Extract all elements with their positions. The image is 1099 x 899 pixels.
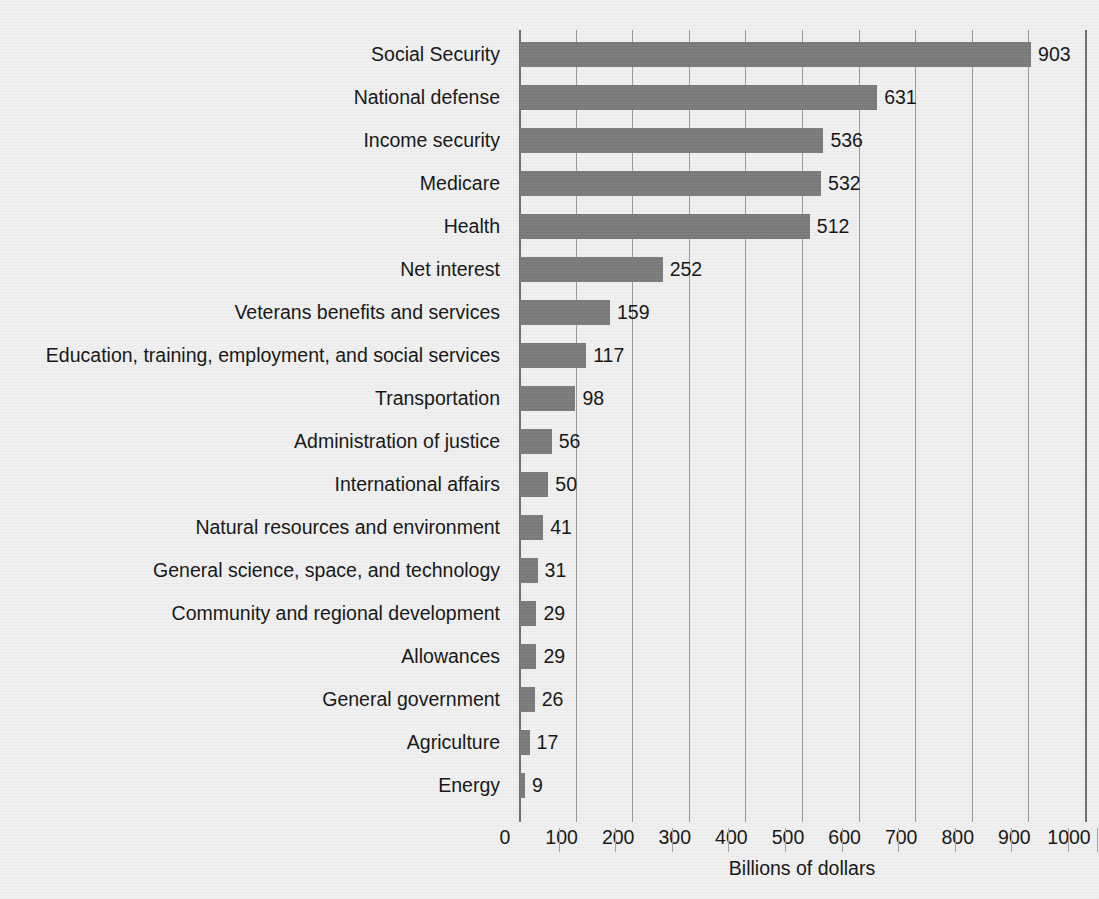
category-label: National defense xyxy=(354,76,500,119)
category-label: Agriculture xyxy=(407,721,500,764)
bar xyxy=(520,515,543,540)
bar xyxy=(520,644,536,669)
bar-value-label: 9 xyxy=(532,764,543,807)
bar-row: National defense631 xyxy=(0,76,1099,119)
bar xyxy=(520,85,877,110)
bar-value-label: 29 xyxy=(543,635,565,678)
bar xyxy=(520,214,810,239)
x-axis-tick-labels: 01002003004005006007008009001000 xyxy=(0,826,1099,854)
x-tick-label-700: 700 xyxy=(871,826,931,849)
bar-value-label: 512 xyxy=(817,205,850,248)
x-tick-separator xyxy=(1068,828,1069,852)
bar-value-label: 252 xyxy=(670,248,703,291)
x-tick-separator xyxy=(898,828,899,852)
category-label: Veterans benefits and services xyxy=(234,291,500,334)
bar xyxy=(520,730,530,755)
bar-row: Health512 xyxy=(0,205,1099,248)
bar-row: Medicare532 xyxy=(0,162,1099,205)
category-label: Community and regional development xyxy=(172,592,500,635)
category-label: Transportation xyxy=(375,377,500,420)
bar-row: General government26 xyxy=(0,678,1099,721)
bar-row: Community and regional development29 xyxy=(0,592,1099,635)
x-tick-separator xyxy=(615,828,616,852)
bar-value-label: 536 xyxy=(830,119,863,162)
bar xyxy=(520,601,536,626)
bar-row: Energy9 xyxy=(0,764,1099,807)
x-tick-separator xyxy=(728,828,729,852)
x-tick-label-800: 800 xyxy=(928,826,988,849)
x-tick-label-0: 0 xyxy=(475,826,535,849)
bar-row: Agriculture17 xyxy=(0,721,1099,764)
bar-row: Natural resources and environment41 xyxy=(0,506,1099,549)
x-tick-separator xyxy=(842,828,843,852)
bar-value-label: 26 xyxy=(542,678,564,721)
bar-value-label: 41 xyxy=(550,506,572,549)
bar-value-label: 159 xyxy=(617,291,650,334)
bar-value-label: 31 xyxy=(545,549,567,592)
bar xyxy=(520,687,535,712)
bar-value-label: 50 xyxy=(555,463,577,506)
bar-value-label: 17 xyxy=(537,721,559,764)
category-label: Health xyxy=(444,205,500,248)
category-label: Education, training, employment, and soc… xyxy=(46,334,500,377)
x-tick-label-600: 600 xyxy=(815,826,875,849)
x-tick-label-300: 300 xyxy=(645,826,705,849)
bar xyxy=(520,773,525,798)
bar-row: Income security536 xyxy=(0,119,1099,162)
category-label: Natural resources and environment xyxy=(195,506,500,549)
bar-row: Veterans benefits and services159 xyxy=(0,291,1099,334)
bar-value-label: 903 xyxy=(1038,33,1071,76)
bar xyxy=(520,472,548,497)
x-tick-separator xyxy=(955,828,956,852)
bar xyxy=(520,300,610,325)
x-tick-separator xyxy=(559,828,560,852)
category-label: Income security xyxy=(363,119,500,162)
x-tick-label-1000: 1000 xyxy=(1039,826,1099,849)
x-tick-separator xyxy=(785,828,786,852)
bar-row: Administration of justice56 xyxy=(0,420,1099,463)
x-tick-label-400: 400 xyxy=(701,826,761,849)
x-tick-label-900: 900 xyxy=(984,826,1044,849)
bar-value-label: 98 xyxy=(582,377,604,420)
bar xyxy=(520,171,821,196)
category-label: Medicare xyxy=(420,162,500,205)
category-label: General government xyxy=(322,678,500,721)
category-label: International affairs xyxy=(335,463,501,506)
category-label: Allowances xyxy=(401,635,500,678)
bar-value-label: 29 xyxy=(543,592,565,635)
bar xyxy=(520,429,552,454)
bar-row: General science, space, and technology31 xyxy=(0,549,1099,592)
x-tick-separator xyxy=(1097,828,1098,852)
bar xyxy=(520,386,575,411)
bar-row: Transportation98 xyxy=(0,377,1099,420)
category-label: Social Security xyxy=(371,33,500,76)
bar-row: Education, training, employment, and soc… xyxy=(0,334,1099,377)
x-tick-label-200: 200 xyxy=(588,826,648,849)
bar-chart: Social Security903National defense631Inc… xyxy=(0,0,1099,899)
x-axis-title: Billions of dollars xyxy=(519,857,1085,880)
bar xyxy=(520,558,538,583)
bar-row: Net interest252 xyxy=(0,248,1099,291)
category-label: Net interest xyxy=(400,248,500,291)
chart-title xyxy=(150,0,850,4)
bar-value-label: 56 xyxy=(559,420,581,463)
bar-row: Social Security903 xyxy=(0,33,1099,76)
bar-row: Allowances29 xyxy=(0,635,1099,678)
bar xyxy=(520,257,663,282)
category-label: Energy xyxy=(438,764,500,807)
bar xyxy=(520,343,586,368)
bar xyxy=(520,128,823,153)
x-tick-separator xyxy=(1011,828,1012,852)
bar-value-label: 532 xyxy=(828,162,861,205)
bar-value-label: 631 xyxy=(884,76,917,119)
category-label: Administration of justice xyxy=(294,420,500,463)
x-tick-label-500: 500 xyxy=(758,826,818,849)
bar-value-label: 117 xyxy=(593,334,624,377)
x-tick-separator xyxy=(672,828,673,852)
x-tick-label-100: 100 xyxy=(532,826,592,849)
bar-row: International affairs50 xyxy=(0,463,1099,506)
bar xyxy=(520,42,1031,67)
category-label: General science, space, and technology xyxy=(153,549,500,592)
